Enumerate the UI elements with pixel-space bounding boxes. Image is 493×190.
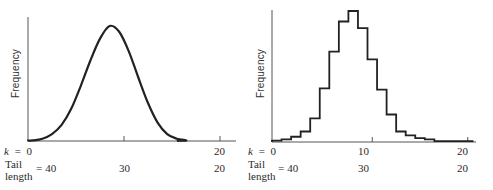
- left-chart-panel: Frequency k = 0 20 Tail length =40 30 20: [0, 0, 246, 190]
- k-symbol: k: [248, 145, 253, 157]
- right-tail-tick-30: 30: [358, 163, 369, 174]
- right-k-tick-10: 10: [358, 146, 369, 157]
- equals-sign: =: [15, 145, 21, 157]
- left-k-tick-20: 20: [214, 146, 225, 157]
- k-symbol: k: [4, 145, 9, 157]
- length-word: length: [5, 170, 33, 182]
- right-y-axis-label: Frequency: [255, 49, 266, 98]
- left-tail-tick-20: 20: [214, 163, 225, 174]
- tail-word: Tail: [5, 158, 33, 170]
- right-tail-tick-40: =40: [278, 163, 298, 174]
- histogram-steps: [272, 11, 473, 142]
- left-tail-tick-40: =40: [36, 163, 56, 174]
- right-k-tick-0: 0: [271, 145, 277, 157]
- right-tail-tick-20: 20: [457, 163, 468, 174]
- left-tail-length-label: Tail length: [5, 158, 33, 182]
- right-k-tick-20: 20: [457, 146, 468, 157]
- left-y-axis-label: Frequency: [10, 49, 21, 98]
- tail-word: Tail: [248, 158, 276, 170]
- bell-curve: [28, 26, 186, 141]
- length-word: length: [248, 170, 276, 182]
- left-k-tick-0: 0: [27, 145, 33, 157]
- right-chart-panel: Frequency k = 0 10 20 Tail length =40 30…: [246, 0, 493, 190]
- equals-sign: =: [259, 145, 265, 157]
- right-k-axis-label: k = 0: [248, 146, 276, 157]
- left-k-axis-label: k = 0: [4, 146, 32, 157]
- left-tail-tick-30: 30: [119, 163, 130, 174]
- right-tail-length-label: Tail length: [248, 158, 276, 182]
